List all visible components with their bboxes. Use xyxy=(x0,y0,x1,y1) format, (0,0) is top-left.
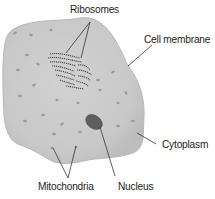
ribosomes-label: Ribosomes xyxy=(70,3,119,15)
mitochondria-label: Mitochondria xyxy=(38,180,94,192)
nucleus-label: Nucleus xyxy=(118,180,153,192)
cell-body xyxy=(3,18,144,164)
cytoplasm-label: Cytoplasm xyxy=(162,138,208,150)
cell-membrane-label: Cell membrane xyxy=(144,33,210,45)
cell-diagram: Ribosomes Cell membrane Cytoplasm Mitoch… xyxy=(0,0,215,199)
cell-illustration xyxy=(0,0,215,199)
